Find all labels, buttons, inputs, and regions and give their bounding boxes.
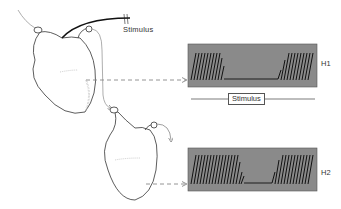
stimulus-bar-label: Stimulus	[228, 93, 265, 105]
recording-label-h1: H1	[321, 59, 331, 68]
heart-1-icon	[33, 26, 96, 113]
heart-2-icon	[104, 107, 157, 200]
recording-label-h2: H2	[321, 168, 331, 177]
stimulus-label: Stimulus	[123, 25, 153, 34]
outflow-tube	[157, 124, 171, 140]
vagus-nerve	[62, 18, 130, 38]
diagram-canvas	[0, 0, 341, 209]
recording-h2	[188, 148, 317, 191]
inflow-tube	[18, 10, 35, 28]
recording-h1	[188, 44, 317, 87]
